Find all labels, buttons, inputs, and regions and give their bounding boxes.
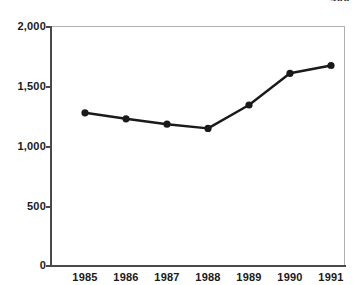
chart-figure: 400 2,000 1,500 1,000 500 0 1985 1986 19…	[0, 0, 360, 285]
data-point	[327, 62, 334, 69]
data-series-layer	[0, 0, 360, 285]
data-point	[245, 101, 252, 108]
data-point	[163, 121, 170, 128]
data-point	[81, 109, 88, 116]
data-point	[204, 125, 211, 132]
data-point	[122, 115, 129, 122]
series-line	[85, 66, 331, 129]
data-point	[286, 70, 293, 77]
